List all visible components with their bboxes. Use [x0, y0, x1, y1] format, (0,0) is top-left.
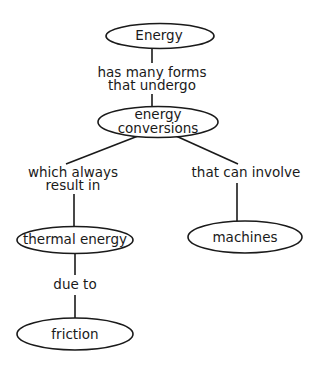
edge-conversions-to-that-can-involve [176, 136, 238, 164]
link-label-has-many-forms-line2: that undergo [108, 77, 196, 93]
link-label-has-many-forms: has many forms that undergo [98, 64, 207, 93]
node-friction: friction [17, 318, 133, 350]
node-thermal-energy-label: thermal energy [23, 231, 127, 247]
node-energy: Energy [106, 24, 214, 49]
node-thermal-energy: thermal energy [17, 227, 133, 254]
link-label-which-always-line2: result in [46, 177, 101, 193]
concept-map: Energy energy conversions thermal energy… [0, 0, 319, 371]
link-label-due-to: due to [53, 276, 96, 292]
link-label-which-always: which always result in [28, 164, 118, 193]
edge-conversions-to-which-always [66, 136, 138, 164]
node-machines-label: machines [212, 229, 277, 245]
link-label-due-to-line1: due to [53, 276, 96, 292]
node-energy-label: Energy [135, 27, 182, 43]
node-energy-conversions-label-line2: conversions [118, 120, 199, 136]
node-machines: machines [188, 221, 302, 253]
link-label-that-can-involve-line1: that can involve [192, 164, 301, 180]
node-energy-conversions: energy conversions [98, 106, 218, 138]
link-label-that-can-involve: that can involve [192, 164, 301, 180]
node-friction-label: friction [51, 326, 98, 342]
